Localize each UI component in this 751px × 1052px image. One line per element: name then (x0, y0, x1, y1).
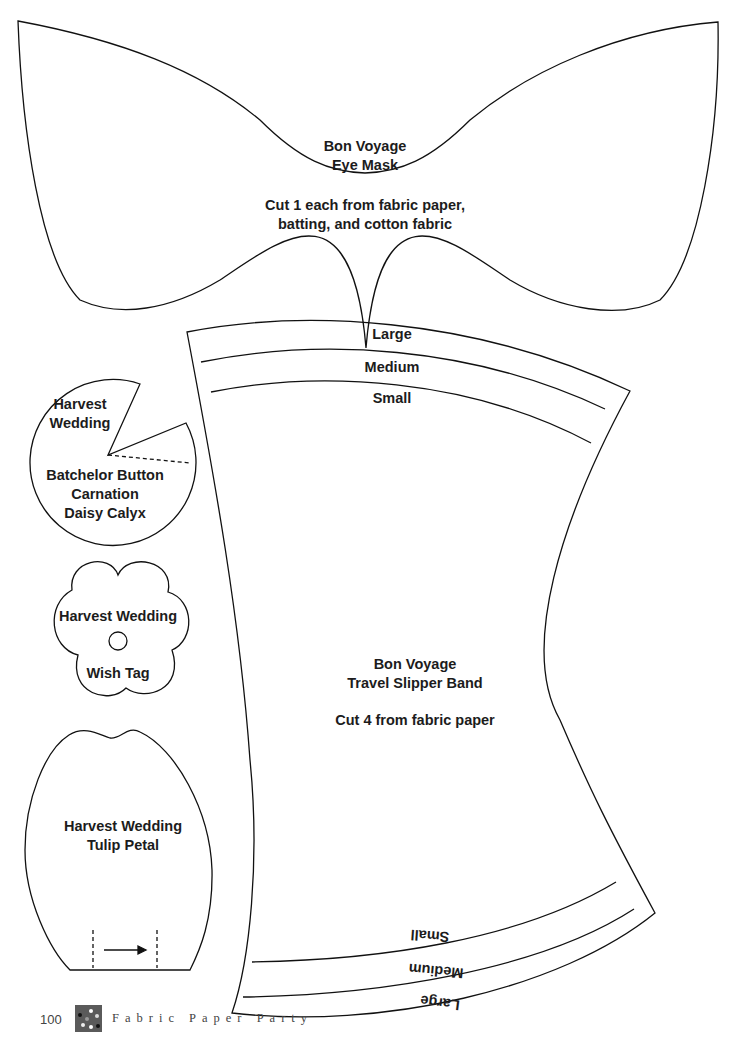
flower-circle-bottom-label: Batchelor Button Carnation Daisy Calyx (35, 466, 175, 523)
slipper-band-instruction: Cut 4 from fabric paper (320, 711, 510, 730)
flower-circle-top-line2: Wedding (40, 414, 120, 433)
arrow-right-icon (104, 946, 146, 954)
book-title: Fabric Paper Party (112, 1011, 313, 1026)
wish-tag-line1: Harvest Wedding (48, 607, 188, 626)
slipper-band-title-line2: Travel Slipper Band (330, 674, 500, 693)
size-label-medium-top: Medium (352, 358, 432, 377)
eye-mask-title-line1: Bon Voyage (315, 137, 415, 156)
flower-circle-top-line1: Harvest (40, 395, 120, 414)
size-label-large-top: Large (352, 325, 432, 344)
tulip-petal-line2: Tulip Petal (48, 836, 198, 855)
eye-mask-title: Bon Voyage Eye Mask (315, 137, 415, 175)
flower-circle-bottom-line1: Batchelor Button (35, 466, 175, 485)
size-label-small-top: Small (352, 389, 432, 408)
page-number: 100 (40, 1012, 62, 1027)
tulip-petal-line1: Harvest Wedding (48, 817, 198, 836)
flower-circle-bottom-line3: Daisy Calyx (35, 504, 175, 523)
slipper-band-title: Bon Voyage Travel Slipper Band (330, 655, 500, 693)
band-line-medium-bottom (243, 909, 634, 997)
eye-mask-title-line2: Eye Mask (315, 156, 415, 175)
tulip-petal-label: Harvest Wedding Tulip Petal (48, 817, 198, 855)
eye-mask-outline (18, 21, 718, 348)
flower-circle-top-label: Harvest Wedding (40, 395, 120, 433)
wish-tag-hole (109, 632, 127, 650)
eye-mask-instruction-line1: Cut 1 each from fabric paper, (230, 196, 500, 215)
slipper-band-title-line1: Bon Voyage (330, 655, 500, 674)
eye-mask-instruction-line2: batting, and cotton fabric (230, 215, 500, 234)
band-line-small-bottom (252, 882, 616, 962)
wish-tag-line2: Wish Tag (68, 664, 168, 683)
eye-mask-instruction: Cut 1 each from fabric paper, batting, a… (230, 196, 500, 234)
fabric-swatch-icon (75, 1005, 102, 1032)
flower-circle-bottom-line2: Carnation (35, 485, 175, 504)
fold-line (108, 455, 190, 463)
